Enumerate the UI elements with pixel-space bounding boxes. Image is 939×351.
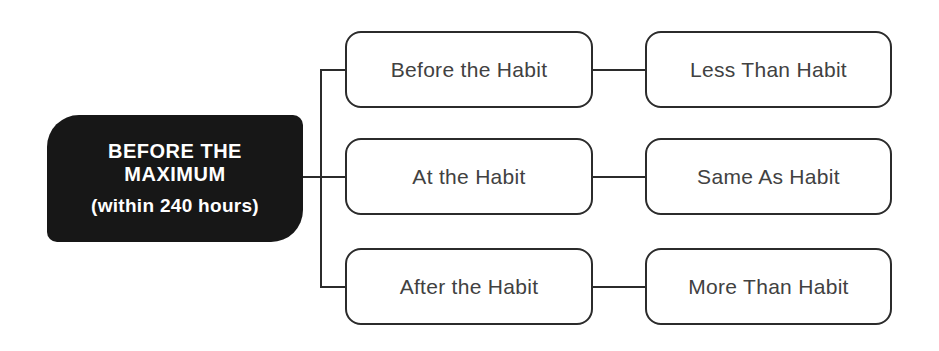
connector-trunk-to-row1 — [320, 69, 346, 71]
connector-trunk-vertical — [320, 69, 322, 288]
node-less-than-habit: Less Than Habit — [645, 31, 892, 108]
node-label: Before the Habit — [391, 58, 548, 82]
node-after-the-habit: After the Habit — [345, 248, 593, 325]
node-label: After the Habit — [400, 275, 539, 299]
node-more-than-habit: More Than Habit — [645, 248, 892, 325]
root-node-before-the-maximum: BEFORE THE MAXIMUM (within 240 hours) — [47, 115, 303, 242]
connector-trunk-to-row3 — [320, 286, 346, 288]
connector-row2-middle-to-right — [593, 176, 646, 178]
flowchart-diagram: BEFORE THE MAXIMUM (within 240 hours) Be… — [0, 0, 939, 351]
root-title-line2: MAXIMUM — [108, 163, 242, 186]
node-label: Less Than Habit — [690, 58, 847, 82]
node-label: More Than Habit — [688, 275, 849, 299]
connector-root-to-middle — [303, 176, 346, 178]
root-node-subtitle: (within 240 hours) — [91, 195, 259, 217]
node-label: At the Habit — [412, 165, 525, 189]
node-at-the-habit: At the Habit — [345, 138, 593, 215]
node-same-as-habit: Same As Habit — [645, 138, 892, 215]
connector-row1-middle-to-right — [593, 69, 646, 71]
root-title-line1: BEFORE THE — [108, 140, 242, 163]
root-node-title: BEFORE THE MAXIMUM — [108, 140, 242, 186]
node-label: Same As Habit — [697, 165, 840, 189]
connector-row3-middle-to-right — [593, 286, 646, 288]
node-before-the-habit: Before the Habit — [345, 31, 593, 108]
